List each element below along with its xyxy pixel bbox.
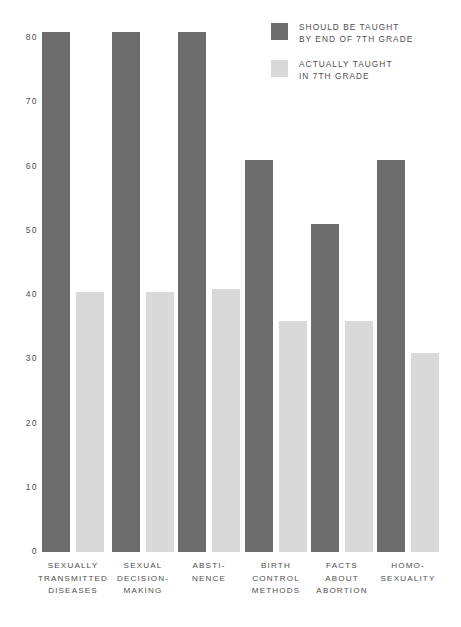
bar-actually-taught xyxy=(345,321,373,552)
y-axis-tick-label: 60 xyxy=(4,161,38,171)
bar-should-be-taught xyxy=(311,224,339,552)
bar-should-be-taught xyxy=(245,160,273,552)
bar-actually-taught xyxy=(76,292,104,552)
bar-actually-taught xyxy=(212,289,240,552)
y-axis-tick-label: 10 xyxy=(4,482,38,492)
x-axis-category-label: HOMO- SEXUALITY xyxy=(363,560,453,585)
y-axis-tick-label: 50 xyxy=(4,225,38,235)
bar-actually-taught xyxy=(411,353,439,552)
y-axis-tick-label: 30 xyxy=(4,353,38,363)
bar-actually-taught xyxy=(146,292,174,552)
bar-chart: SHOULD BE TAUGHT BY END OF 7TH GRADE ACT… xyxy=(0,0,461,627)
y-axis-tick-label: 80 xyxy=(4,32,38,42)
y-axis-tick-label: 0 xyxy=(4,546,38,556)
plot-area: 80706050403020100 SEXUALLY TRANSMITTED D… xyxy=(0,0,461,627)
y-axis-tick-label: 70 xyxy=(4,96,38,106)
bar-should-be-taught xyxy=(112,32,140,552)
bar-should-be-taught xyxy=(377,160,405,552)
bar-should-be-taught xyxy=(42,32,70,552)
y-axis-tick-label: 40 xyxy=(4,289,38,299)
y-axis-tick-label: 20 xyxy=(4,418,38,428)
bar-should-be-taught xyxy=(178,32,206,552)
bar-actually-taught xyxy=(279,321,307,552)
